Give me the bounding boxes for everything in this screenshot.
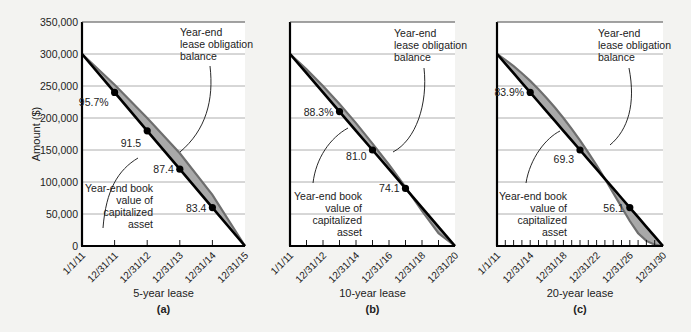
x-axis-label: 5-year lease (133, 287, 194, 299)
book-value-annotation: Year-end book (85, 182, 154, 194)
lease-comparison-figure: Amount ($)050,000100,000150,000200,00025… (0, 0, 691, 332)
y-tick-label: 200,000 (40, 112, 78, 124)
panel-letter: (b) (365, 303, 379, 315)
x-tick-label: 12/31/14 (500, 249, 536, 285)
percent-label: 81.0 (346, 150, 367, 162)
y-tick-label: 250,000 (40, 80, 78, 92)
book-value-annotation: capitalized (517, 214, 567, 226)
x-tick-label: 12/31/20 (425, 249, 461, 285)
x-tick-label: 1/1/11 (268, 249, 295, 276)
percent-label: 87.4 (153, 163, 174, 175)
y-tick-label: 150,000 (40, 144, 78, 156)
x-tick-label: 12/31/13 (150, 249, 186, 285)
x-axis-label: 20-year lease (547, 287, 614, 299)
plot-area (497, 22, 663, 246)
x-tick-label: 12/31/14 (326, 249, 362, 285)
percent-label: 56.1 (603, 202, 624, 214)
data-point (111, 89, 118, 96)
percent-label: 91.5 (121, 137, 142, 149)
chart-canvas: Amount ($)050,000100,000150,000200,00025… (0, 0, 691, 332)
percent-label: 95.7% (79, 96, 109, 108)
data-point (527, 89, 534, 96)
obligation-annotation: balance (180, 50, 217, 62)
data-point (209, 204, 216, 211)
obligation-annotation: Year-end (394, 27, 436, 39)
x-tick-label: 12/31/26 (600, 249, 636, 285)
obligation-annotation: Year-end (598, 27, 640, 39)
panel-b: 1/1/1112/31/1212/31/1412/31/1612/31/1812… (268, 22, 467, 315)
data-point (402, 185, 409, 192)
x-tick-label: 12/31/15 (215, 249, 251, 285)
obligation-annotation: balance (598, 51, 635, 63)
percent-label: 83.4 (186, 202, 207, 214)
book-value-annotation: capitalized (312, 214, 362, 226)
obligation-annotation: lease obligation (180, 38, 253, 50)
x-tick-label: 12/31/16 (359, 249, 395, 285)
percent-label: 83.9% (494, 86, 524, 98)
data-point (336, 108, 343, 115)
x-tick-label: 12/31/12 (117, 249, 153, 285)
x-tick-label: 12/31/22 (567, 249, 603, 285)
y-tick-label: 0 (72, 240, 78, 252)
data-point (369, 146, 376, 153)
x-tick-label: 12/31/18 (392, 249, 428, 285)
book-value-annotation: value of (116, 194, 153, 206)
y-tick-label: 50,000 (46, 208, 78, 220)
book-value-annotation: capitalized (103, 206, 153, 218)
panel-a: 1/1/1112/31/1112/31/1212/31/1312/31/1412… (60, 22, 253, 315)
book-value-annotation: Year-end book (294, 190, 363, 202)
y-tick-label: 350,000 (40, 16, 78, 28)
x-tick-label: 12/31/12 (293, 249, 329, 285)
obligation-annotation: lease obligation (394, 39, 467, 51)
y-tick-label: 100,000 (40, 176, 78, 188)
percent-label: 88.3% (304, 106, 334, 118)
book-value-annotation: value of (530, 202, 567, 214)
book-value-annotation: asset (128, 218, 153, 230)
x-axis-label: 10-year lease (339, 287, 406, 299)
x-tick-label: 12/31/14 (183, 249, 219, 285)
obligation-annotation: balance (394, 51, 431, 63)
x-tick-label: 12/31/11 (85, 249, 120, 284)
panel-letter: (a) (157, 303, 171, 315)
obligation-annotation: Year-end (180, 26, 222, 38)
x-tick-label: 12/31/18 (534, 249, 570, 285)
panel-c: 1/1/1112/31/1412/31/1812/31/2212/31/2612… (475, 22, 671, 315)
data-point (626, 204, 633, 211)
book-value-annotation: Year-end book (499, 190, 568, 202)
x-tick-label: 1/1/11 (60, 249, 87, 276)
data-point (576, 146, 583, 153)
obligation-annotation: lease obligation (598, 39, 671, 51)
y-tick-label: 300,000 (40, 48, 78, 60)
percent-label: 69.3 (554, 153, 575, 165)
data-point (144, 127, 151, 134)
percent-label: 74.1 (379, 182, 400, 194)
panel-letter: (c) (573, 303, 587, 315)
data-point (176, 166, 183, 173)
x-tick-label: 12/31/30 (633, 249, 669, 285)
book-value-annotation: asset (337, 226, 362, 238)
book-value-annotation: asset (542, 226, 567, 238)
book-value-annotation: value of (325, 202, 362, 214)
x-tick-label: 1/1/11 (475, 249, 502, 276)
